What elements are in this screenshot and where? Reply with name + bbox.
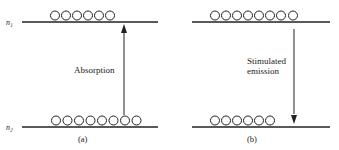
upper-level-label: n₁: [6, 18, 13, 27]
absorption-label: Absorption: [74, 65, 115, 75]
energy-level-diagram: n₁ n₂ Absorption (a) Stimulated emission…: [0, 0, 339, 150]
panel-b-upper-atoms: [211, 11, 298, 20]
panel-a-upper-atoms: [51, 11, 115, 20]
emission-arrowhead-icon: [291, 115, 297, 124]
panel-a-caption: (a): [78, 134, 88, 144]
panel-a-lower-atoms: [52, 116, 142, 125]
panel-b-lower-atoms: [211, 116, 275, 125]
emission-label: emission: [247, 66, 280, 76]
lower-level-label: n₂: [6, 123, 13, 132]
absorption-arrowhead-icon: [121, 24, 127, 33]
stimulated-label: Stimulated: [247, 56, 286, 66]
panel-b-caption: (b): [247, 134, 257, 144]
